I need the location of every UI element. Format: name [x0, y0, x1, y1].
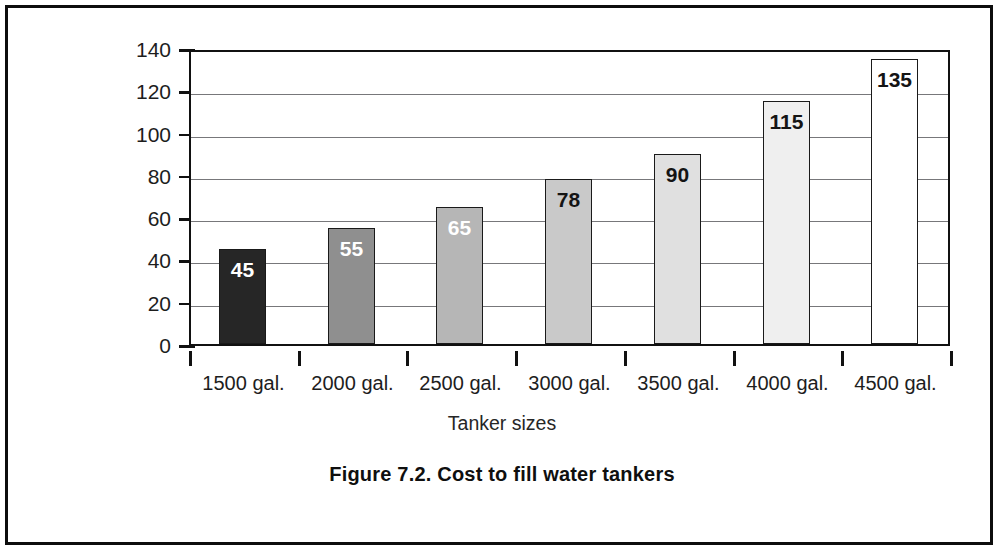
x-tick-mark: [624, 351, 627, 366]
y-tick-label: 100: [111, 124, 171, 145]
plot-area: 4555657890115135: [189, 50, 950, 346]
bar-value-label: 135: [872, 69, 917, 90]
x-tick-label: 3500 gal.: [624, 372, 733, 395]
x-tick-mark: [841, 351, 844, 366]
x-tick-label: 1500 gal.: [189, 372, 298, 395]
bar[interactable]: 65: [436, 207, 483, 344]
y-tick-label: 40: [111, 250, 171, 271]
x-tick-mark: [298, 351, 301, 366]
y-axis-ticks: 020406080100120140: [113, 50, 171, 346]
bar-chart: Amount charged in credits ('000) 0204060…: [8, 8, 996, 448]
bar[interactable]: 78: [545, 179, 592, 344]
x-tick-label: 3000 gal.: [515, 372, 624, 395]
bar[interactable]: 55: [328, 228, 375, 344]
bar-value-label: 55: [329, 238, 374, 259]
bar-value-label: 90: [655, 164, 700, 185]
x-tick-mark: [515, 351, 518, 366]
y-tick-label: 60: [111, 208, 171, 229]
x-tick-label: 2500 gal.: [406, 372, 515, 395]
x-tick-label: 4500 gal.: [841, 372, 950, 395]
gridline: [191, 94, 948, 95]
x-axis-title: Tanker sizes: [8, 412, 996, 435]
bar[interactable]: 135: [871, 59, 918, 344]
x-tick-label: 2000 gal.: [298, 372, 407, 395]
figure-caption: Figure 7.2. Cost to fill water tankers: [8, 463, 996, 486]
y-tick-label: 140: [111, 39, 171, 60]
x-tick-mark: [189, 351, 192, 366]
x-tick-label: 4000 gal.: [733, 372, 842, 395]
bar-value-label: 45: [220, 259, 265, 280]
bar-value-label: 115: [764, 111, 809, 132]
y-tick-label: 80: [111, 166, 171, 187]
gridline: [191, 137, 948, 138]
x-tick-mark: [406, 351, 409, 366]
y-tick-label: 0: [111, 335, 171, 356]
bar[interactable]: 45: [219, 249, 266, 344]
bar-value-label: 78: [546, 189, 591, 210]
x-tick-mark: [950, 351, 953, 366]
y-tick-label: 20: [111, 293, 171, 314]
x-tick-mark: [733, 351, 736, 366]
figure-frame: Amount charged in credits ('000) 0204060…: [5, 5, 993, 545]
bar-value-label: 65: [437, 217, 482, 238]
bar[interactable]: 90: [654, 154, 701, 344]
y-tick-label: 120: [111, 81, 171, 102]
bar[interactable]: 115: [763, 101, 810, 344]
